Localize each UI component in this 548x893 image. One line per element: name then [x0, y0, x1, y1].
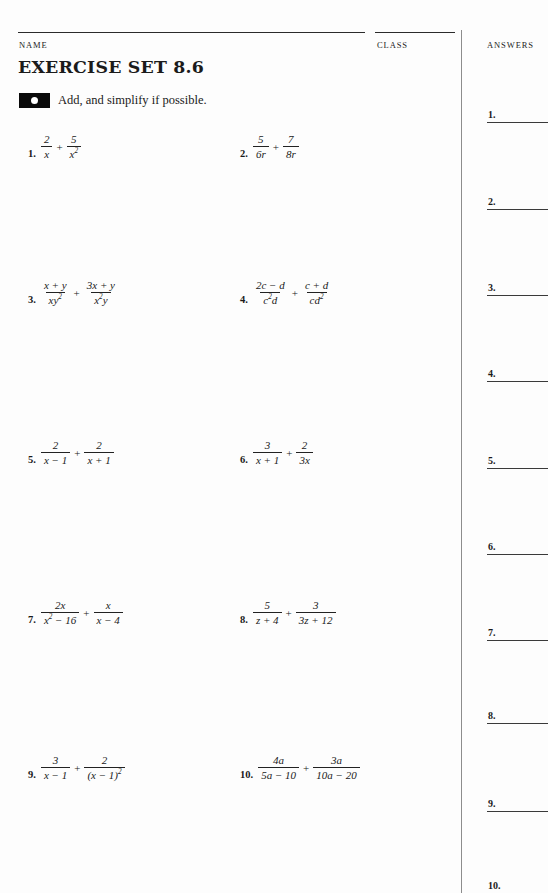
fraction-numerator: c + d: [302, 279, 331, 292]
answer-write-line[interactable]: [487, 554, 548, 555]
fraction-denominator: cd2: [307, 292, 327, 306]
problem-number: 9.: [28, 769, 36, 781]
fraction: 3x + 1: [253, 439, 282, 466]
operator-plus: +: [83, 606, 89, 619]
fraction-numerator: 2c − d: [253, 279, 288, 292]
answer-number: 5.: [487, 455, 548, 468]
answer-number: 6.: [487, 541, 548, 554]
problem-9: 9.3x − 1+2(x − 1)2: [28, 754, 125, 781]
fraction-numerator: 2: [99, 754, 111, 767]
operator-plus: +: [303, 761, 309, 774]
fraction: 2c − dc2d: [253, 279, 288, 306]
fraction-numerator: 2: [50, 439, 62, 452]
answer-blank-6[interactable]: 6.: [487, 541, 548, 555]
fraction: 33z + 12: [296, 599, 336, 626]
problem-number: 8.: [240, 614, 248, 626]
problem-number: 10.: [240, 769, 253, 781]
answer-blank-3[interactable]: 3.: [487, 282, 548, 296]
fraction-numerator: 7: [285, 133, 297, 146]
name-label: NAME: [19, 40, 48, 50]
answer-number: 9.: [487, 798, 548, 811]
answer-number: 2.: [487, 196, 548, 209]
problem-1: 1.2x+5x2: [28, 133, 81, 160]
answer-number: 4.: [487, 368, 548, 381]
problem-number: 3.: [28, 294, 36, 306]
marker-dot: [31, 97, 38, 104]
fraction-numerator: 2x: [52, 599, 68, 612]
problem-number: 4.: [240, 294, 248, 306]
answer-write-line[interactable]: [487, 381, 548, 382]
answer-write-line[interactable]: [487, 468, 548, 469]
fraction-denominator: x − 1: [41, 452, 70, 466]
problem-6: 6.3x + 1+23x: [240, 439, 313, 466]
fraction-numerator: x + y: [41, 279, 70, 292]
answer-blank-4[interactable]: 4.: [487, 368, 548, 382]
problem-7: 7.2xx2 − 16+xx − 4: [28, 599, 123, 626]
answer-number: 3.: [487, 282, 548, 295]
answer-number: 10.: [487, 880, 548, 893]
answer-number: 1.: [487, 109, 548, 122]
answer-write-line[interactable]: [487, 723, 548, 724]
fraction-denominator: x − 4: [94, 612, 123, 626]
operator-plus: +: [56, 140, 62, 153]
answer-blank-2[interactable]: 2.: [487, 196, 548, 210]
fraction-numerator: 2: [41, 133, 53, 146]
fraction: 23x: [296, 439, 312, 466]
answer-write-line[interactable]: [487, 295, 548, 296]
fraction-denominator: xy2: [46, 292, 65, 306]
answer-blank-10[interactable]: 10.: [487, 880, 548, 893]
operator-plus: +: [286, 446, 292, 459]
answer-write-line[interactable]: [487, 640, 548, 641]
problem-4: 4.2c − dc2d+c + dcd2: [240, 279, 331, 306]
answer-blank-7[interactable]: 7.: [487, 627, 548, 641]
fraction-numerator: 5: [68, 133, 80, 146]
answer-write-line[interactable]: [487, 811, 548, 812]
answer-blank-9[interactable]: 9.: [487, 798, 548, 812]
fraction: 2(x − 1)2: [84, 754, 124, 781]
problem-number: 6.: [240, 454, 248, 466]
answer-write-line[interactable]: [487, 209, 548, 210]
operator-plus: +: [286, 606, 292, 619]
problem-8: 8.5z + 4+33z + 12: [240, 599, 336, 626]
instruction-text: Add, and simplify if possible.: [58, 93, 207, 108]
fraction: 2xx2 − 16: [41, 599, 79, 626]
worksheet-page: NAME CLASS ANSWERS EXERCISE SET 8.6 Add,…: [0, 0, 548, 893]
fraction: c + dcd2: [302, 279, 331, 306]
fraction-denominator: 3z + 12: [296, 612, 336, 626]
name-rule: [18, 32, 365, 33]
answer-write-line[interactable]: [487, 122, 548, 123]
fraction-denominator: x2: [67, 146, 81, 160]
operator-plus: +: [273, 140, 279, 153]
fraction-numerator: 5: [255, 133, 267, 146]
operator-plus: +: [74, 446, 80, 459]
answer-blank-8[interactable]: 8.: [487, 710, 548, 724]
fraction: 3x − 1: [41, 754, 70, 781]
fraction-denominator: x + 1: [253, 452, 282, 466]
problem-number: 7.: [28, 614, 36, 626]
fraction-numerator: 5: [261, 599, 273, 612]
fraction-numerator: 3: [262, 439, 274, 452]
answers-column-divider: [461, 30, 462, 893]
fraction: 5x2: [67, 133, 81, 160]
fraction-numerator: 3: [50, 754, 62, 767]
fraction: 78r: [283, 133, 299, 160]
operator-plus: +: [74, 761, 80, 774]
fraction: 4a5a − 10: [258, 754, 299, 781]
fraction-numerator: 3: [310, 599, 322, 612]
answer-blank-5[interactable]: 5.: [487, 455, 548, 469]
operator-plus: +: [74, 286, 80, 299]
problem-10: 10.4a5a − 10+3a10a − 20: [240, 754, 360, 781]
problem-number: 5.: [28, 454, 36, 466]
fraction-denominator: 8r: [283, 146, 299, 160]
answer-number: 8.: [487, 710, 548, 723]
answer-blank-1[interactable]: 1.: [487, 109, 548, 123]
fraction-denominator: x2 − 16: [41, 612, 79, 626]
fraction-denominator: x2y: [91, 292, 110, 306]
fraction: 2x: [41, 133, 53, 160]
fraction-denominator: 10a − 20: [313, 767, 359, 781]
fraction: xx − 4: [94, 599, 123, 626]
fraction: 3a10a − 20: [313, 754, 359, 781]
fraction-numerator: 3a: [328, 754, 345, 767]
fraction-denominator: x + 1: [84, 452, 113, 466]
fraction-numerator: 3x + y: [84, 279, 118, 292]
